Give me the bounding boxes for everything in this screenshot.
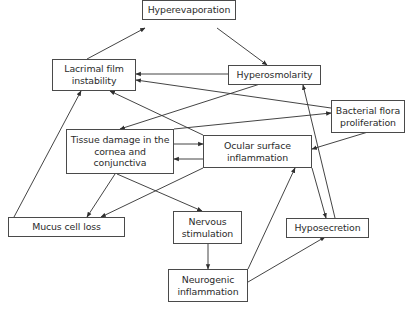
node-hyperevaporation: Hyperevaporation [142,0,236,20]
node-label: Hyperevaporation [148,4,231,16]
node-nervous-stimulation: Nervous stimulation [173,211,242,244]
dry-eye-vicious-cycle-diagram: Hyperevaporation Lacrimal film instabili… [0,0,409,314]
node-label: Hyposecretion [294,222,360,234]
node-hyperosmolarity: Hyperosmolarity [228,65,321,85]
arrow-tissue-to-nervous [117,174,202,211]
node-label: Tissue damage in the cornea and conjunct… [70,134,170,169]
arrow-lacrimal-to-hyperevaporation [87,28,145,59]
arrow-bacterial-to-ocular [312,132,368,149]
node-tissue-damage: Tissue damage in the cornea and conjunct… [66,129,174,174]
node-label: Nervous stimulation [177,216,238,239]
node-label: Ocular surface inflammation [207,140,308,163]
node-lacrimal-film-instability: Lacrimal film instability [52,59,136,91]
node-mucus-cell-loss: Mucus cell loss [8,217,125,237]
node-neurogenic-inflammation: Neurogenic inflammation [168,269,248,302]
node-label: Lacrimal film instability [56,63,132,86]
arrow-ocular-to-hyposecretion [312,168,326,218]
arrow-ocular-to-mucus [101,168,203,217]
node-label: Bacterial flora proliferation [335,105,401,128]
node-bacterial-flora-proliferation: Bacterial flora proliferation [331,100,405,133]
arrow-hyperevaporation-to-hyperosmolarity [217,28,267,65]
node-label: Hyperosmolarity [237,69,313,81]
node-label: Mucus cell loss [32,221,101,233]
arrow-tissue-to-mucus [87,174,115,217]
node-label: Neurogenic inflammation [172,274,244,297]
node-hyposecretion: Hyposecretion [286,218,369,238]
arrow-tissue-to-bacterial [174,113,331,129]
node-ocular-surface-inflammation: Ocular surface inflammation [203,135,312,168]
